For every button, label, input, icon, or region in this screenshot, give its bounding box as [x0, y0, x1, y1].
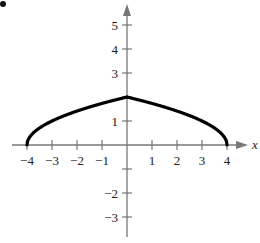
y-tick-label: −3 [104, 210, 118, 225]
x-tick-label: −4 [20, 153, 34, 168]
y-tick-label: 1 [112, 114, 119, 129]
y-tick-label: 5 [112, 18, 119, 33]
bullet-marker [0, 1, 6, 7]
function-graph: −4−3−2−11234−3−21345 x [0, 0, 260, 243]
x-tick-label: 3 [199, 153, 206, 168]
x-axis-label: x [251, 137, 258, 152]
x-tick-label: 1 [149, 153, 156, 168]
x-tick-label: −3 [45, 153, 59, 168]
y-tick-label: 4 [112, 42, 119, 57]
x-axis-arrow-icon [236, 141, 248, 149]
y-axis-arrow-icon [123, 4, 131, 16]
x-tick-label: −2 [70, 153, 84, 168]
y-tick-label: 3 [112, 66, 119, 81]
x-tick-label: 2 [174, 153, 181, 168]
x-tick-label: 4 [224, 153, 231, 168]
y-tick-label: −2 [104, 186, 118, 201]
x-tick-label: −1 [95, 153, 109, 168]
